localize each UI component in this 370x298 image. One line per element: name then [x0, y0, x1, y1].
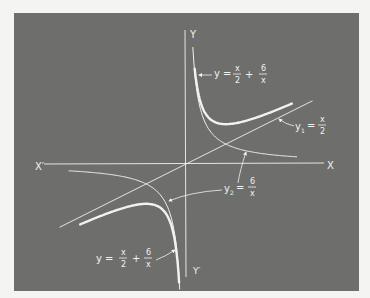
svg-text:=: =: [236, 182, 244, 193]
label-y1: y 1 = x 2: [295, 115, 326, 136]
svg-text:2: 2: [320, 127, 325, 136]
label-y2: y 2 = 6 x: [224, 177, 256, 198]
svg-text:x: x: [320, 115, 325, 124]
curve-y2-right: [193, 47, 297, 157]
svg-text:2: 2: [235, 76, 240, 85]
x-axis: [44, 163, 324, 164]
svg-text:6: 6: [146, 248, 151, 257]
svg-text:6: 6: [250, 177, 255, 186]
graph: Y Y′ X X′ y = x 2 + 6 x y 1 = x 2 y 2 = …: [0, 0, 370, 298]
x-neg-axis-label: X′: [35, 161, 45, 172]
curve-sum-right: [195, 69, 292, 124]
axes: [44, 30, 324, 277]
curve-sum-left: [80, 204, 179, 283]
y-axis-label: Y: [189, 29, 197, 40]
svg-text:+: +: [132, 253, 140, 264]
svg-text:y =: y =: [96, 253, 113, 264]
curve-y2-left: [69, 171, 180, 290]
label-sum-top: y = x 2 + 6 x: [214, 64, 267, 85]
y-axis: [185, 30, 186, 277]
svg-text:6: 6: [261, 64, 266, 73]
svg-text:2: 2: [121, 260, 126, 269]
svg-text:1: 1: [301, 127, 305, 134]
svg-text:x: x: [261, 76, 266, 85]
svg-text:x: x: [121, 248, 126, 257]
x-axis-label: X: [327, 160, 334, 171]
svg-text:+: +: [245, 69, 253, 80]
label-sum-bottom: y = x 2 + 6 x: [96, 248, 152, 269]
arrow-y1: [279, 119, 294, 126]
svg-text:x: x: [146, 260, 151, 269]
leader-arrows: [156, 75, 294, 260]
svg-text:x: x: [250, 189, 255, 198]
y-neg-axis-label: Y′: [192, 266, 201, 276]
svg-text:x: x: [235, 64, 240, 73]
arrow-y2-left: [169, 190, 222, 201]
arrow-y2-right: [238, 152, 246, 183]
svg-text:2: 2: [230, 189, 234, 196]
svg-text:=: =: [307, 120, 315, 131]
svg-text:y =: y =: [214, 68, 231, 79]
arrow-sum-bottom: [156, 250, 175, 260]
